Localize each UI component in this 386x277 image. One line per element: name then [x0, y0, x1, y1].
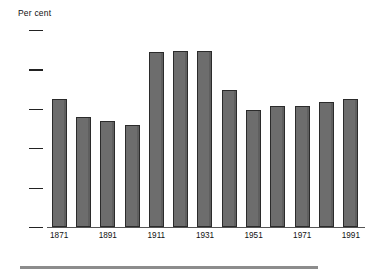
- x-axis-tick-label: 1971: [293, 231, 311, 240]
- bar[interactable]: [197, 51, 212, 227]
- x-axis-line: [47, 227, 365, 228]
- bar[interactable]: [343, 99, 358, 227]
- bar[interactable]: [319, 102, 334, 227]
- bar-slot: [241, 30, 265, 227]
- bar[interactable]: [100, 121, 115, 227]
- footer-divider: [20, 266, 318, 269]
- bar-slot: [168, 30, 192, 227]
- bar[interactable]: [270, 106, 285, 227]
- bar[interactable]: [125, 125, 140, 227]
- x-axis-tick-label: 1891: [99, 231, 117, 240]
- plot-area: 0510152025: [47, 30, 363, 227]
- bar-slot: [339, 30, 363, 227]
- bar-chart: Per cent 0510152025 18711891191119311951…: [0, 0, 386, 277]
- bar-slot: [266, 30, 290, 227]
- bar[interactable]: [52, 99, 67, 227]
- y-axis-tick-mark: [29, 188, 43, 189]
- y-axis-tick-mark: [29, 227, 43, 228]
- bar-slot: [47, 30, 71, 227]
- x-axis-tick-labels: 1871189119111931195119711991: [47, 231, 363, 247]
- bar[interactable]: [246, 110, 261, 227]
- bar[interactable]: [173, 51, 188, 228]
- x-axis-tick-label: 1951: [245, 231, 263, 240]
- y-axis-tick-mark: [29, 69, 43, 70]
- bar-slot: [120, 30, 144, 227]
- y-axis-tick-mark: [29, 109, 43, 110]
- bar[interactable]: [295, 106, 310, 227]
- bar-slot: [96, 30, 120, 227]
- bar[interactable]: [222, 90, 237, 227]
- bar-slot: [193, 30, 217, 227]
- bar-slot: [314, 30, 338, 227]
- y-axis-tick-mark: [29, 148, 43, 149]
- bar-slot: [290, 30, 314, 227]
- bar-series: [47, 30, 363, 227]
- x-axis-tick-label: 1931: [196, 231, 214, 240]
- bar[interactable]: [149, 52, 164, 227]
- bar-slot: [71, 30, 95, 227]
- x-axis-tick-label: 1991: [342, 231, 360, 240]
- y-axis-tick-mark: [29, 30, 43, 31]
- bar-slot: [144, 30, 168, 227]
- y-axis-title: Per cent: [18, 8, 51, 18]
- x-axis-tick-label: 1911: [148, 231, 166, 240]
- x-axis-tick-label: 1871: [50, 231, 68, 240]
- bar[interactable]: [76, 117, 91, 227]
- bar-slot: [217, 30, 241, 227]
